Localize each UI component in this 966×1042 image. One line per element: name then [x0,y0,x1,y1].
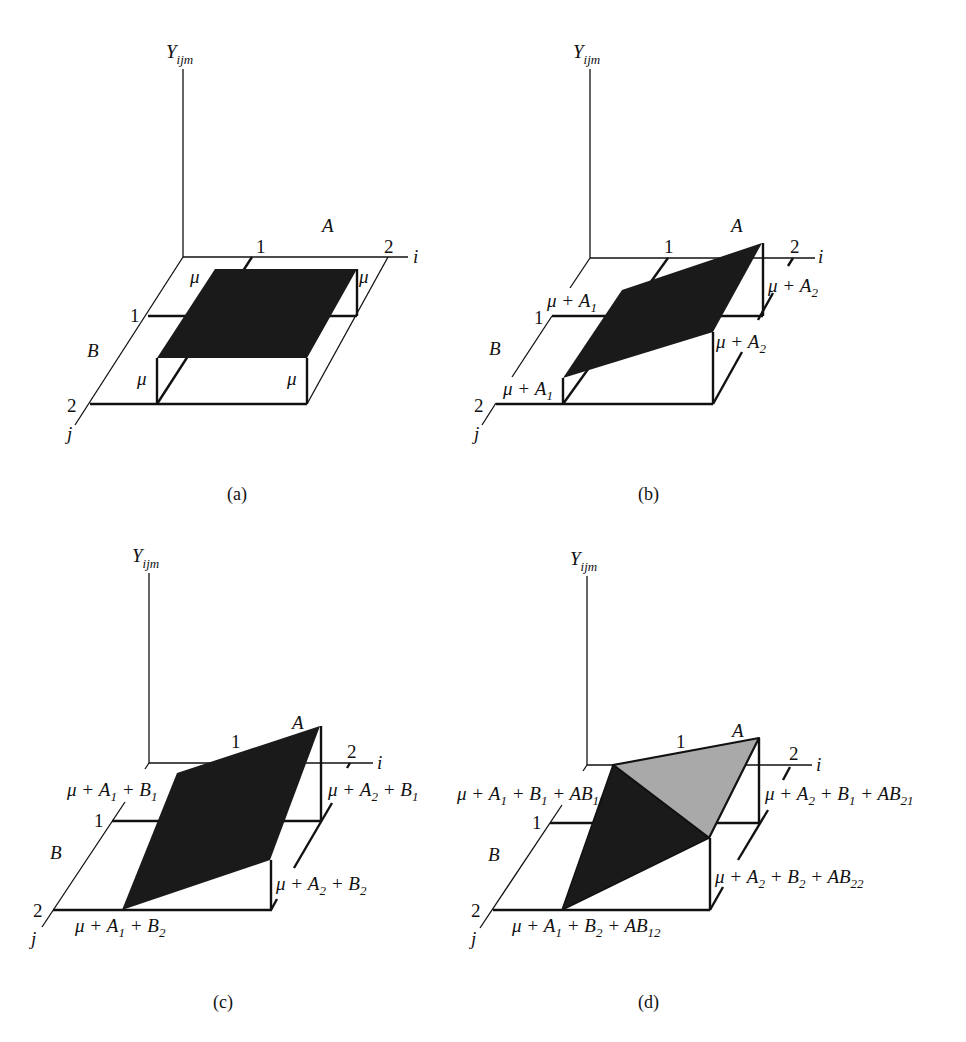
y-axis-label: Yijm [573,41,600,67]
corner-label-22: μ + A2 + B2 + AB22 [714,866,864,891]
factor-b-label: B [87,340,99,361]
j-axis-segment-mid [512,316,552,377]
tick-right-3 [713,352,742,404]
i-axis-label: i [377,752,382,773]
factor-a-label: A [729,215,743,236]
corner-label-12: μ [136,368,147,389]
i-axis-label: i [816,754,821,775]
panel-d: Yijm A 1 2 i 1 B 2 j μ + A1 + B1 + AB11 … [456,548,914,1013]
j-level-1: 1 [534,307,544,328]
corner-label-11: μ + A1 + B1 [66,779,157,804]
corner-label-21: μ [358,266,369,287]
y-axis-label: Yijm [570,548,597,574]
i-axis-label: i [818,246,823,267]
corner-label-11: μ [189,266,200,287]
i-level-1: 1 [231,731,241,752]
caption-c: (c) [213,992,233,1013]
j-axis-segment-top [145,763,149,769]
tick-right-3 [710,887,723,910]
j-axis-segment-top [583,765,587,771]
corner-label-21: μ + A2 [767,275,818,300]
i-level-2: 2 [789,743,799,764]
j-axis-label: j [28,928,36,949]
factor-a-label: A [290,712,304,733]
corner-label-12: μ + A1 [502,378,553,403]
tick-right-2 [294,803,332,868]
factor-b-label: B [488,844,500,865]
j-axis-label: j [468,928,476,949]
caption-a: (a) [227,484,247,505]
j-level-2: 2 [67,395,77,416]
response-surface [157,269,357,358]
j-level-2: 2 [471,900,481,921]
j-axis-label: j [471,423,479,444]
factor-b-label: B [489,338,501,359]
factor-b-label: B [50,842,62,863]
j-level-1: 1 [94,810,104,831]
j-level-2: 2 [474,395,484,416]
i-level-2: 2 [790,236,800,257]
tick-right-2 [738,810,768,860]
corner-label-21: μ + A2 + B1 + AB21 [764,783,914,808]
i-level-2: 2 [347,741,357,762]
caption-b: (b) [638,484,659,505]
j-axis-segment-top [570,258,590,288]
i-level-1: 1 [256,236,266,257]
corner-label-21: μ + A2 + B1 [327,779,418,804]
anova-figure: Yijm A 1 2 i 1 B 2 j μ μ μ μ (a) Yijm A … [0,0,966,1042]
corner-label-11: μ + A1 + B1 + AB11 [456,783,605,808]
j-level-1: 1 [532,812,542,833]
y-axis-label: Yijm [132,545,159,571]
factor-a-label: A [320,215,334,236]
corner-label-11: μ + A1 [546,290,597,315]
panel-c: Yijm A 1 2 i 1 B 2 j μ + A1 + B1 μ + A2 … [28,545,418,1013]
panel-a: Yijm A 1 2 i 1 B 2 j μ μ μ μ (a) [64,41,418,505]
caption-d: (d) [638,992,659,1013]
i-level-1: 1 [664,236,674,257]
tick-right-2 [758,293,773,320]
factor-a-label: A [730,720,744,741]
corner-label-12: μ + A1 + B2 [74,915,166,940]
tick-right-1 [347,763,350,768]
y-axis-label: Yijm [166,41,193,67]
tick-right-1 [783,767,790,780]
corner-label-22: μ [286,368,297,389]
i-level-1: 1 [676,731,686,752]
tick-right-1 [788,258,793,266]
i-axis-label: i [413,246,418,267]
corner-label-22: μ + A2 + B2 [275,873,367,898]
j-level-1: 1 [130,305,140,326]
corner-label-12: μ + A1 + B2 + AB12 [511,915,661,940]
j-axis-segment-bottom [482,403,496,425]
panel-b: Yijm A 1 2 i 1 B 2 j μ + A1 μ + A2 μ + A… [471,41,823,505]
i-level-2: 2 [384,236,394,257]
j-axis-label: j [64,423,72,444]
j-level-2: 2 [33,900,43,921]
